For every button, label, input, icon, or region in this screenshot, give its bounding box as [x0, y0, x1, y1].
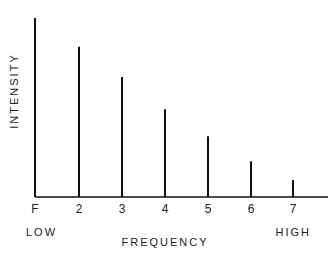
x-tick-3: 3 [119, 202, 126, 216]
x-axis-label: FREQUENCY [121, 236, 208, 248]
x-tick-F: F [31, 202, 38, 216]
spectrum-chart: F234567 INTENSITY FREQUENCY LOW HIGH [0, 0, 333, 257]
low-label: LOW [26, 226, 57, 238]
high-label: HIGH [276, 226, 312, 238]
x-tick-7: 7 [290, 202, 297, 216]
x-tick-6: 6 [248, 202, 255, 216]
x-tick-labels: F234567 [31, 202, 296, 216]
bars-group [35, 18, 293, 197]
y-axis-label: INTENSITY [8, 53, 20, 128]
x-tick-2: 2 [76, 202, 83, 216]
x-tick-4: 4 [162, 202, 169, 216]
x-tick-5: 5 [205, 202, 212, 216]
